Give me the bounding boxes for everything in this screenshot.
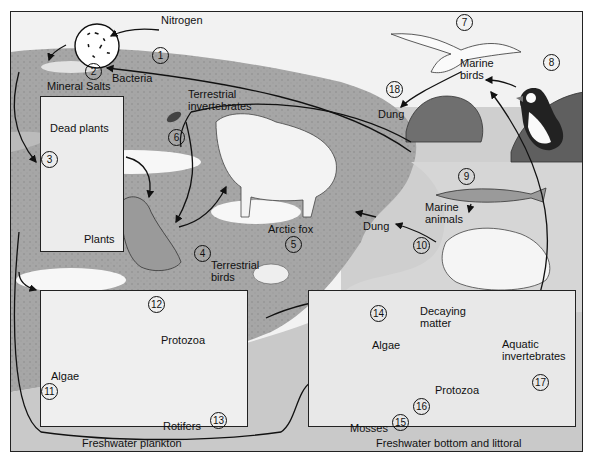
badge-17: 17 xyxy=(532,374,549,391)
plants-box xyxy=(40,96,124,252)
label-dung-birds: Dung xyxy=(378,108,404,120)
badge-11: 11 xyxy=(41,383,58,400)
badge-13: 13 xyxy=(210,412,227,429)
badge-6: 6 xyxy=(168,129,185,146)
label-marine-animals: Marine animals xyxy=(425,201,475,225)
caption-freshwater-plankton: Freshwater plankton xyxy=(82,437,182,449)
badge-18: 18 xyxy=(386,81,403,98)
caption-freshwater-bottom: Freshwater bottom and littoral xyxy=(376,437,522,449)
badge-10: 10 xyxy=(413,237,430,254)
label-protozoa-plankton: Protozoa xyxy=(161,334,205,346)
badge-14: 14 xyxy=(370,305,387,322)
label-aquatic-invertebrates: Aquatic invertebrates xyxy=(502,338,582,362)
label-terrestrial-birds: Terrestrial birds xyxy=(211,259,269,283)
badge-3: 3 xyxy=(41,151,58,168)
label-bacteria: Bacteria xyxy=(112,72,152,84)
label-mosses: Mosses xyxy=(350,422,388,434)
label-dung-fox: Dung xyxy=(363,220,389,232)
label-algae-plankton: Algae xyxy=(51,370,79,382)
badge-5: 5 xyxy=(285,236,302,253)
badge-7: 7 xyxy=(456,14,473,31)
label-rotifers: Rotifers xyxy=(163,420,201,432)
badge-9: 9 xyxy=(458,168,475,185)
label-arctic-fox: Arctic fox xyxy=(268,223,313,235)
label-protozoa-bottom: Protozoa xyxy=(435,384,479,396)
badge-15: 15 xyxy=(392,414,409,431)
label-plants: Plants xyxy=(84,233,115,245)
label-decaying-matter: Decaying matter xyxy=(420,305,476,329)
badge-16: 16 xyxy=(413,398,430,415)
label-dead-plants: Dead plants xyxy=(50,122,109,134)
badge-8: 8 xyxy=(543,54,560,71)
label-mineral-salts: Mineral Salts xyxy=(47,80,111,92)
freshwater-plankton-box xyxy=(40,290,248,427)
label-marine-birds: Marine birds xyxy=(460,57,500,81)
label-algae-bottom: Algae xyxy=(372,339,400,351)
badge-4: 4 xyxy=(194,245,211,262)
label-nitrogen: Nitrogen xyxy=(161,14,203,26)
badge-2: 2 xyxy=(85,63,102,80)
badge-12: 12 xyxy=(148,296,165,313)
diagram-frame: Nitrogen Bacteria 1 2 Mineral Salts Dead… xyxy=(10,11,583,452)
badge-1: 1 xyxy=(152,47,169,64)
label-terrestrial-invertebrates: Terrestrial invertebrates xyxy=(188,88,268,112)
